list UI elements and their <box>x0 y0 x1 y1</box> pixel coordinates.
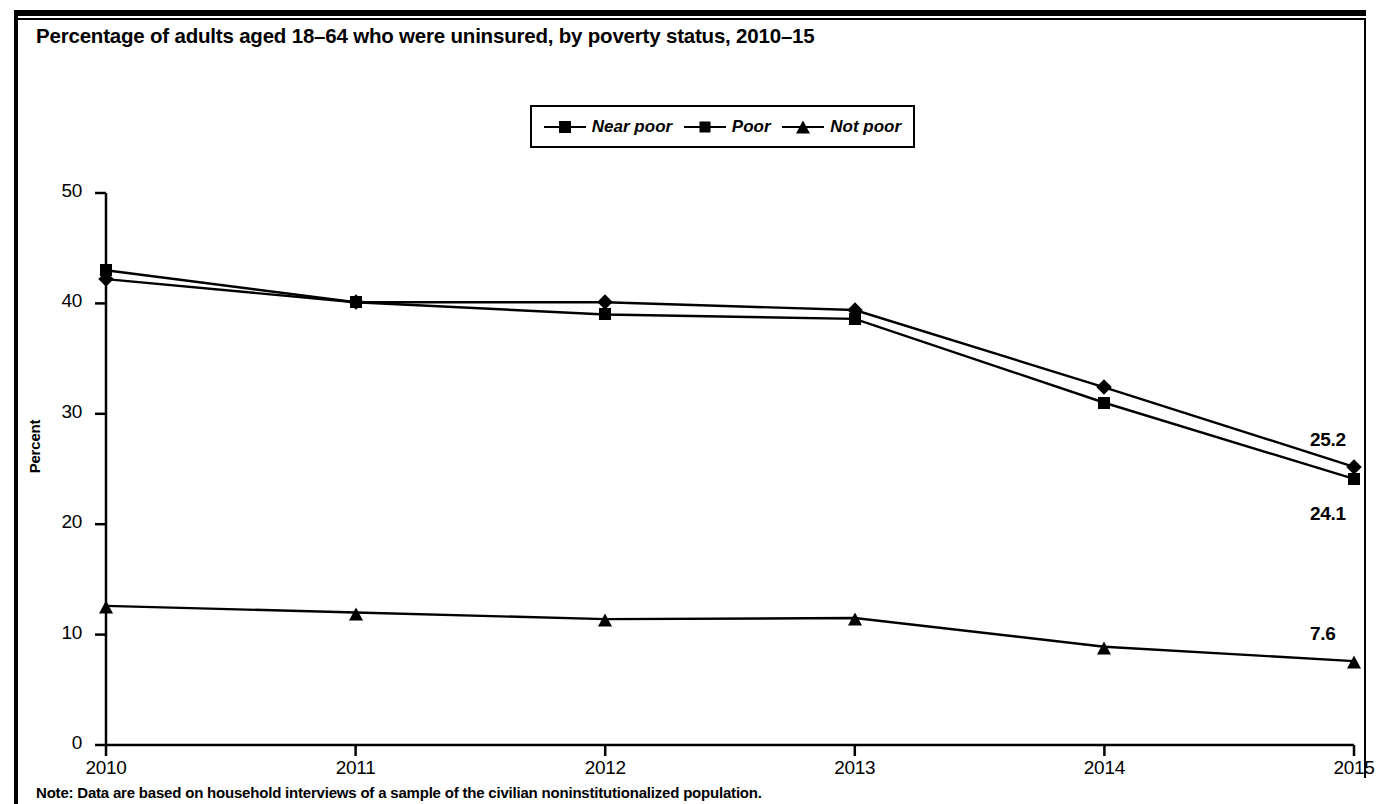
plot-svg <box>0 0 1376 804</box>
chart-figure: Percentage of adults aged 18–64 who were… <box>0 0 1376 804</box>
data-point-label: 25.2 <box>1310 429 1346 451</box>
triangle-marker-icon <box>1097 641 1111 654</box>
triangle-marker-icon <box>1347 656 1361 669</box>
triangle-marker-icon <box>99 600 113 613</box>
x-tick-label: 2012 <box>560 757 650 779</box>
x-tick-label: 2014 <box>1059 757 1149 779</box>
x-tick-label: 2010 <box>61 757 151 779</box>
y-tick-label: 10 <box>36 622 82 644</box>
chart-note: Note: Data are based on household interv… <box>36 784 762 801</box>
data-point-label: 7.6 <box>1310 623 1336 645</box>
x-tick-label: 2013 <box>810 757 900 779</box>
triangle-marker-icon <box>848 613 862 626</box>
square-marker-icon <box>599 308 611 320</box>
x-tick-label: 2011 <box>311 757 401 779</box>
y-tick-label: 30 <box>36 401 82 423</box>
data-point-label: 24.1 <box>1310 503 1346 525</box>
triangle-marker-icon <box>349 607 363 620</box>
y-tick-label: 0 <box>36 732 82 754</box>
y-tick-label: 20 <box>36 511 82 533</box>
triangle-marker-icon <box>598 614 612 627</box>
square-marker-icon <box>1098 397 1110 409</box>
x-tick-label: 2015 <box>1309 757 1376 779</box>
y-tick-label: 40 <box>36 290 82 312</box>
plot-area: Percent 01020304050 20102011201220132014… <box>0 0 1376 804</box>
y-tick-label: 50 <box>36 180 82 202</box>
